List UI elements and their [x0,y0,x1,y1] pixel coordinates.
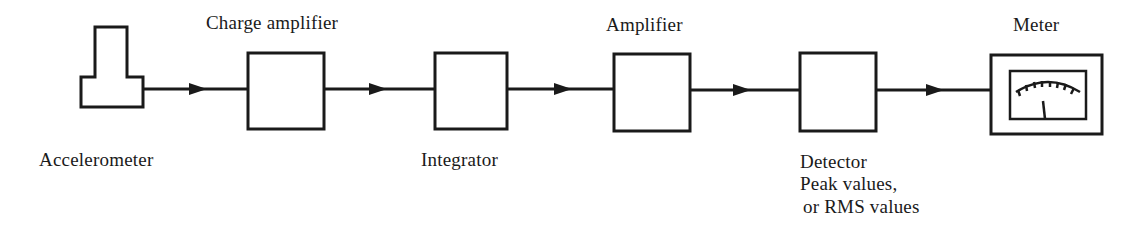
accelerometer-icon [81,27,143,107]
arrow-icon [926,84,944,96]
detector-sublabel-peak: Peak values, [800,173,897,195]
integrator-block [435,53,507,129]
arrow-icon [733,84,751,96]
accelerometer-label: Accelerometer [39,149,153,171]
block-diagram [0,0,1131,233]
arrow-icon [369,83,387,95]
arrow-icon [189,83,207,95]
charge-amplifier-label: Charge amplifier [206,12,338,34]
arrow-icon [554,83,572,95]
meter-icon [991,55,1102,134]
amplifier-label: Amplifier [606,14,683,36]
detector-sublabel-rms: or RMS values [803,196,920,218]
charge-amplifier-block [248,53,324,129]
detector-label: Detector [800,151,867,173]
integrator-label: Integrator [421,149,498,171]
amplifier-block [614,54,690,131]
meter-label: Meter [1013,14,1059,36]
detector-block [800,53,876,131]
